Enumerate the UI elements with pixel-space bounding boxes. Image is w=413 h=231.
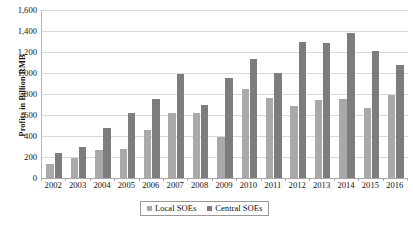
bar-local-soes-2012	[290, 106, 297, 178]
y-axis-tick-600: 600	[24, 111, 37, 120]
x-tickmark-2007	[163, 178, 164, 181]
legend-swatch-central-soes	[207, 206, 212, 211]
bar-central-soes-2007	[177, 74, 184, 178]
bar-group-2010	[237, 10, 261, 178]
x-axis-line	[42, 178, 408, 179]
bar-group-2009	[213, 10, 237, 178]
x-tickmark-2003	[65, 178, 66, 181]
bar-group-2016	[384, 10, 408, 178]
bar-central-soes-2012	[299, 42, 306, 179]
x-tickmark-2002	[41, 178, 42, 181]
bar-group-2003	[66, 10, 90, 178]
x-tickmark-2010	[236, 178, 237, 181]
x-tickmark-2014	[334, 178, 335, 181]
bar-local-soes-2014	[339, 99, 346, 178]
x-axis-tick-2010: 2010	[236, 180, 260, 191]
bar-central-soes-2002	[55, 153, 62, 178]
bar-local-soes-2008	[193, 113, 200, 178]
y-axis-tick-200: 200	[24, 153, 37, 162]
plot-area	[41, 10, 408, 178]
bar-local-soes-2015	[364, 108, 371, 178]
bar-central-soes-2010	[250, 59, 257, 178]
bar-local-soes-2003	[71, 158, 78, 178]
y-axis-tick-0: 0	[33, 174, 37, 183]
bar-central-soes-2014	[347, 33, 354, 178]
x-axis-tick-2003: 2003	[65, 180, 89, 191]
x-tickmark-2011	[261, 178, 262, 181]
bar-group-2013	[310, 10, 334, 178]
bar-group-2012	[286, 10, 310, 178]
bar-central-soes-2015	[372, 51, 379, 178]
bar-group-2015	[359, 10, 383, 178]
bar-local-soes-2005	[120, 149, 127, 178]
x-axis-tick-2015: 2015	[358, 180, 382, 191]
bar-chart: Profits in Billion RMB 1,6001,4001,2001,…	[0, 0, 413, 231]
bar-local-soes-2002	[46, 164, 53, 178]
bar-central-soes-2005	[128, 113, 135, 178]
x-tickmark-2013	[309, 178, 310, 181]
bars-layer	[42, 10, 408, 178]
bar-central-soes-2011	[274, 73, 281, 178]
x-axis-tick-2002: 2002	[41, 180, 65, 191]
bar-central-soes-2016	[396, 65, 403, 178]
bar-group-2014	[335, 10, 359, 178]
y-axis-tick-400: 400	[24, 132, 37, 141]
legend-label-local-soes: Local SOEs	[155, 203, 196, 213]
bar-group-2002	[42, 10, 66, 178]
x-tickmark-2005	[114, 178, 115, 181]
bar-group-2008	[188, 10, 212, 178]
x-axis-tick-2004: 2004	[90, 180, 114, 191]
bar-local-soes-2016	[388, 95, 395, 178]
x-tickmark-2008	[187, 178, 188, 181]
bar-local-soes-2009	[217, 137, 224, 178]
bar-group-2005	[115, 10, 139, 178]
x-axis-tick-2016: 2016	[383, 180, 407, 191]
x-axis-tick-2005: 2005	[114, 180, 138, 191]
bar-group-2004	[91, 10, 115, 178]
bar-group-2006	[140, 10, 164, 178]
legend-label-central-soes: Central SOEs	[215, 203, 262, 213]
x-tickmark-2012	[285, 178, 286, 181]
legend-swatch-local-soes	[147, 206, 152, 211]
bar-local-soes-2007	[168, 113, 175, 178]
bar-group-2011	[262, 10, 286, 178]
x-axis-tick-2008: 2008	[187, 180, 211, 191]
x-axis-tick-2012: 2012	[285, 180, 309, 191]
x-tickmark-2006	[139, 178, 140, 181]
bar-local-soes-2004	[95, 150, 102, 178]
bar-central-soes-2013	[323, 43, 330, 178]
x-tickmark-2004	[90, 178, 91, 181]
x-axis-tick-2006: 2006	[139, 180, 163, 191]
bar-central-soes-2008	[201, 105, 208, 179]
bar-central-soes-2004	[103, 128, 110, 178]
bar-local-soes-2010	[242, 89, 249, 178]
x-tickmark-2009	[212, 178, 213, 181]
y-axis-tick-1200: 1,200	[18, 48, 37, 57]
bar-local-soes-2011	[266, 98, 273, 178]
y-axis-tick-800: 800	[24, 90, 37, 99]
x-axis-tick-2013: 2013	[309, 180, 333, 191]
bar-local-soes-2006	[144, 130, 151, 178]
y-axis-tick-1400: 1,400	[18, 27, 37, 36]
x-axis-tick-2009: 2009	[212, 180, 236, 191]
legend-item-central-soes[interactable]: Central SOEs	[207, 203, 262, 213]
y-axis-tick-1600: 1,600	[18, 6, 37, 15]
x-axis-tick-labels: 2002200320042005200620072008200920102011…	[41, 180, 407, 193]
x-axis-tick-2007: 2007	[163, 180, 187, 191]
y-axis-tick-1000: 1,000	[18, 69, 37, 78]
y-axis-tick-labels: 1,6001,4001,2001,0008006004002000	[0, 0, 40, 190]
legend-item-local-soes[interactable]: Local SOEs	[147, 203, 196, 213]
x-tickmark-end	[407, 178, 408, 181]
bar-local-soes-2013	[315, 100, 322, 178]
bar-central-soes-2003	[79, 147, 86, 178]
x-axis-tick-2014: 2014	[334, 180, 358, 191]
bar-group-2007	[164, 10, 188, 178]
bar-central-soes-2006	[152, 99, 159, 178]
chart-legend: Local SOEs Central SOEs	[140, 201, 269, 216]
x-tickmark-2016	[383, 178, 384, 181]
x-axis-tick-2011: 2011	[261, 180, 285, 191]
bar-central-soes-2009	[225, 78, 232, 178]
x-tickmark-2015	[358, 178, 359, 181]
